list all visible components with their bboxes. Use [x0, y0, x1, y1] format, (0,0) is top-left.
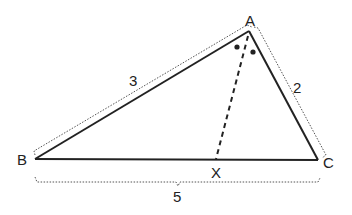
side-ab: [35, 31, 249, 159]
side-label-ab: 3: [129, 72, 137, 89]
triangle-diagram: A B C X 3 2 5: [0, 0, 352, 215]
point-label-x: X: [211, 164, 221, 181]
side-bc: [35, 159, 318, 160]
vertex-label-b: B: [17, 151, 27, 168]
side-ac: [249, 31, 318, 160]
vertex-label-c: C: [323, 154, 334, 171]
angle-bisector-ax: [216, 36, 248, 159]
angle-mark-dot: [234, 44, 239, 49]
side-label-bc: 5: [173, 188, 181, 205]
diagram-svg: A B C X 3 2 5: [0, 0, 352, 215]
side-ab-measure-line: [34, 25, 252, 155]
side-label-ac: 2: [293, 79, 301, 96]
vertex-label-a: A: [245, 12, 255, 29]
angle-mark-dot: [250, 49, 255, 54]
side-ac-measure-line: [254, 27, 326, 158]
side-bc-measure-line: [35, 177, 320, 186]
